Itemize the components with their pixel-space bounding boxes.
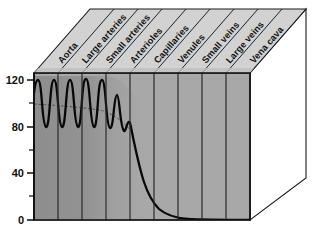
blood-pressure-chart: 120 80 40 0 Aorta Large arteries Small a… [0,0,323,241]
y-tick-label-120: 120 [6,74,24,86]
y-axis: 120 80 40 0 [6,73,34,226]
y-tick-label-0: 0 [18,214,24,226]
chart-canvas: 120 80 40 0 Aorta Large arteries Small a… [0,0,323,241]
y-tick-label-40: 40 [12,167,24,179]
y-tick-label-80: 80 [12,121,24,133]
